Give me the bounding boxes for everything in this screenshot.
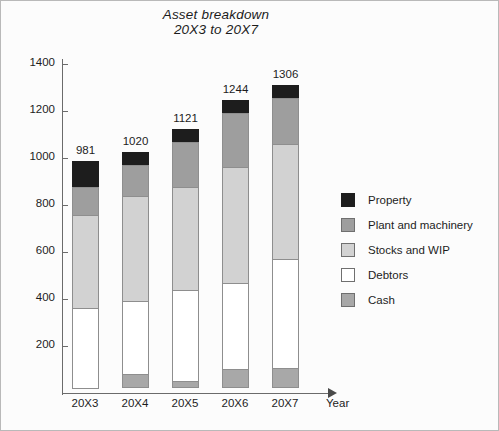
legend-swatch-icon: [341, 293, 355, 307]
y-tick-mark: [62, 346, 68, 347]
bar-segment-debtors[interactable]: [72, 308, 99, 389]
bar-total-label: 1244: [208, 83, 264, 95]
y-tick-mark: [62, 111, 68, 112]
legend-label: Cash: [368, 294, 395, 306]
legend-label: Property: [368, 194, 411, 206]
y-tick-mark: [62, 299, 68, 300]
y-tick-label: 200: [9, 338, 55, 350]
y-tick-label: 1000: [9, 150, 55, 162]
bar-20x4[interactable]: 1020: [122, 153, 149, 393]
legend-swatch-icon: [341, 218, 355, 232]
bar-segment-cash[interactable]: [222, 369, 249, 388]
y-tick-label: 400: [9, 291, 55, 303]
x-axis-line: [62, 393, 329, 394]
bar-total-label: 1121: [158, 112, 214, 124]
y-tick-label: 1200: [9, 103, 55, 115]
x-tick-label-20x4: 20X4: [107, 397, 163, 409]
bar-segment-stocks[interactable]: [122, 196, 149, 302]
bar-segment-plant[interactable]: [272, 98, 299, 145]
y-tick-mark: [62, 158, 68, 159]
bar-segment-plant[interactable]: [222, 113, 249, 168]
legend-label: Stocks and WIP: [368, 244, 450, 256]
bar-segment-plant[interactable]: [72, 187, 99, 216]
bar-segment-property[interactable]: [122, 152, 149, 166]
bar-segment-property[interactable]: [72, 161, 99, 187]
y-tick-label: 600: [9, 244, 55, 256]
legend-swatch-icon: [341, 243, 355, 257]
bar-total-label: 1306: [258, 68, 314, 80]
bar-segment-stocks[interactable]: [222, 167, 249, 285]
legend-swatch-icon: [341, 268, 355, 282]
legend-item-debtors[interactable]: Debtors: [341, 262, 473, 287]
bar-segment-debtors[interactable]: [122, 301, 149, 375]
bar-segment-stocks[interactable]: [72, 215, 99, 309]
y-tick-mark: [62, 64, 68, 65]
x-tick-label-20x3: 20X3: [57, 397, 113, 409]
bar-total-label: 981: [58, 144, 114, 156]
legend-label: Debtors: [368, 269, 408, 281]
bar-segment-debtors[interactable]: [272, 259, 299, 369]
bar-total-label: 1020: [108, 135, 164, 147]
legend-item-stocks-and-wip[interactable]: Stocks and WIP: [341, 237, 473, 262]
y-tick-mark: [62, 205, 68, 206]
bar-segment-debtors[interactable]: [172, 290, 199, 382]
y-axis-line: [62, 59, 63, 395]
legend-item-property[interactable]: Property: [341, 187, 473, 212]
chart-frame: Asset breakdown 20X3 to 20X7 20040060080…: [0, 0, 499, 431]
bar-segment-cash[interactable]: [272, 368, 299, 388]
bar-segment-debtors[interactable]: [222, 283, 249, 370]
x-tick-label-20x5: 20X5: [157, 397, 213, 409]
y-tick-mark: [62, 252, 68, 253]
y-tick-label: 800: [9, 197, 55, 209]
bar-segment-plant[interactable]: [122, 165, 149, 197]
x-tick-label-20x6: 20X6: [207, 397, 263, 409]
legend-label: Plant and machinery: [368, 219, 473, 231]
legend-item-plant-and-machinery[interactable]: Plant and machinery: [341, 212, 473, 237]
y-tick-label: 1400: [9, 56, 55, 68]
bar-segment-property[interactable]: [172, 129, 199, 143]
bar-segment-cash[interactable]: [172, 381, 199, 388]
bar-20x7[interactable]: 1306: [272, 86, 299, 393]
bar-segment-plant[interactable]: [172, 142, 199, 188]
bar-segment-property[interactable]: [272, 85, 299, 99]
bar-segment-stocks[interactable]: [172, 187, 199, 292]
bar-segment-stocks[interactable]: [272, 144, 299, 259]
chart-legend: PropertyPlant and machineryStocks and WI…: [341, 187, 473, 312]
bar-segment-cash[interactable]: [122, 374, 149, 388]
bar-20x6[interactable]: 1244: [222, 101, 249, 393]
legend-item-cash[interactable]: Cash: [341, 287, 473, 312]
bar-20x3[interactable]: 981: [72, 162, 99, 393]
legend-swatch-icon: [341, 193, 355, 207]
x-axis-title: Year: [326, 397, 349, 409]
bar-segment-property[interactable]: [222, 100, 249, 114]
x-tick-label-20x7: 20X7: [257, 397, 313, 409]
bar-20x5[interactable]: 1121: [172, 130, 199, 393]
